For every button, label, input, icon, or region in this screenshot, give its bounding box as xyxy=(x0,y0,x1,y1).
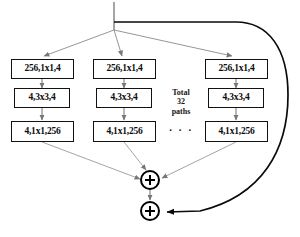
path-32-box-2[interactable]: 4,3x3,4 xyxy=(208,88,264,108)
paths-ellipsis: · · · xyxy=(159,124,203,136)
resnext-block-diagram: 256,1x1,4 4,3x3,4 4,1x1,256 256,1x1,4 4,… xyxy=(0,0,300,237)
path-1-box-1[interactable]: 256,1x1,4 xyxy=(11,59,74,79)
path-1-box-2[interactable]: 4,3x3,4 xyxy=(14,88,70,108)
aggregate-sum-icon xyxy=(140,170,160,190)
path-1-box-3[interactable]: 4,1x1,256 xyxy=(11,121,74,142)
path-2-box-3[interactable]: 4,1x1,256 xyxy=(93,121,156,142)
path-2-box-2[interactable]: 4,3x3,4 xyxy=(96,88,152,108)
path-32-box-3[interactable]: 4,1x1,256 xyxy=(205,121,268,142)
total-paths-label: Total 32 paths xyxy=(159,88,203,116)
residual-sum-icon xyxy=(140,201,160,221)
path-32-box-1[interactable]: 256,1x1,4 xyxy=(205,59,268,79)
path-2-box-1[interactable]: 256,1x1,4 xyxy=(93,59,156,79)
split-edges xyxy=(44,30,232,56)
